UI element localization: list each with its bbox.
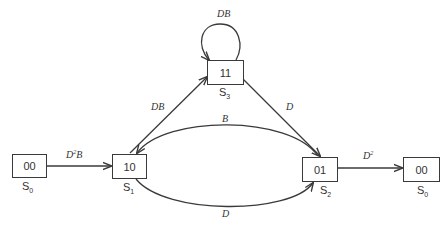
edge-label-s1-s2: D bbox=[222, 208, 229, 219]
edge-label-s3-s2: D bbox=[286, 101, 293, 112]
state-box-s1: 10 bbox=[112, 154, 147, 179]
state-label-s1: S1 bbox=[123, 181, 134, 195]
state-box-s0-left: 00 bbox=[12, 154, 47, 178]
state-code: 00 bbox=[415, 164, 427, 176]
state-code: 10 bbox=[123, 161, 135, 173]
edge-s1-s2 bbox=[136, 179, 313, 207]
state-label-s3: S3 bbox=[219, 86, 230, 100]
state-code: 01 bbox=[314, 164, 326, 176]
state-box-s0-right: 00 bbox=[403, 157, 440, 182]
edge-label-s3-loop: DB bbox=[217, 8, 230, 19]
state-code: 11 bbox=[220, 67, 231, 79]
edge-s1-s3 bbox=[130, 77, 207, 153]
edge-label-s1-s3: DB bbox=[151, 101, 164, 112]
state-label-s0-left: S0 bbox=[22, 180, 33, 194]
edge-s3-loop bbox=[201, 24, 239, 60]
state-box-s2: 01 bbox=[302, 157, 338, 182]
edge-label-s0-s1: D2B bbox=[66, 149, 82, 160]
state-label-s2: S2 bbox=[320, 184, 331, 198]
state-code: 00 bbox=[23, 160, 35, 172]
edge-label-s2-s0: D2 bbox=[363, 150, 373, 161]
state-label-s0-right: S0 bbox=[417, 184, 428, 198]
edge-s2-s1 bbox=[137, 125, 318, 156]
edge-label-s2-s1: B bbox=[222, 113, 228, 124]
edge-s3-s2 bbox=[243, 79, 320, 156]
state-box-s3: 11 bbox=[207, 60, 244, 85]
